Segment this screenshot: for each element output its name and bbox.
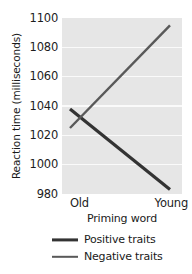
y-tick-label: 1080: [0, 40, 58, 54]
legend-label: Positive traits: [84, 233, 156, 246]
y-tick-label: 1100: [0, 11, 58, 25]
legend-line-icon: [52, 251, 78, 263]
x-tick-label: Old: [70, 196, 89, 210]
chart-figure: Reaction time (milliseconds) 98010001020…: [0, 0, 192, 274]
chart-legend: Positive traitsNegative traits: [52, 231, 192, 265]
plot-area: [62, 18, 182, 194]
legend-item[interactable]: Positive traits: [52, 231, 192, 248]
y-tick-label: 980: [0, 187, 58, 201]
data-lines: [62, 18, 182, 194]
x-axis-label: Priming word: [62, 212, 182, 225]
legend-item[interactable]: Negative traits: [52, 248, 192, 265]
y-tick-label: 1060: [0, 69, 58, 83]
series-line: [70, 25, 170, 128]
y-tick-label: 1020: [0, 128, 58, 142]
y-tick-label: 1040: [0, 99, 58, 113]
series-line: [70, 109, 170, 190]
y-tick-label: 1000: [0, 157, 58, 171]
legend-label: Negative traits: [84, 250, 163, 263]
x-tick-label: Young: [155, 196, 188, 210]
legend-line-icon: [52, 234, 78, 246]
